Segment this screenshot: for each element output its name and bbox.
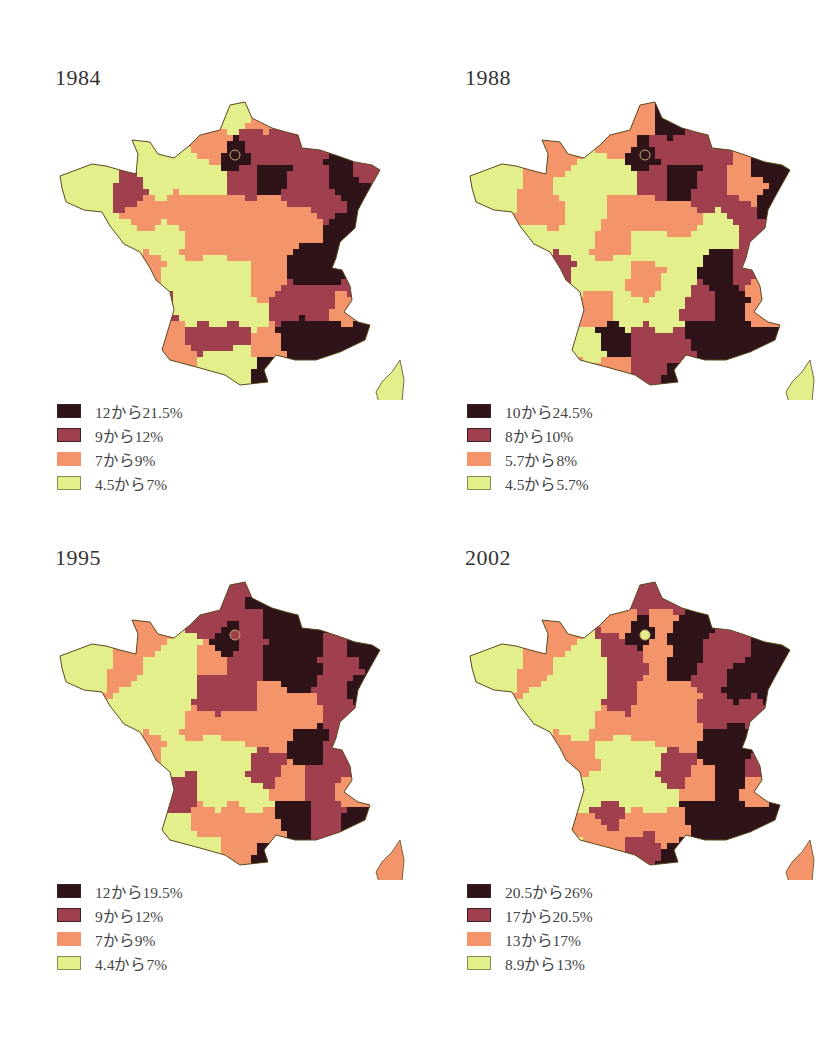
legend-item: 4.5から5.7% xyxy=(467,472,593,494)
legend-item: 9から12% xyxy=(57,904,183,926)
legend-swatch-darkest xyxy=(57,404,81,418)
legend-item: 5.7から8% xyxy=(467,448,593,470)
legend-swatch-maroon xyxy=(57,428,81,442)
legend-item: 4.5から7% xyxy=(57,472,183,494)
legend: 12から19.5% 9から12% 7から9% 4.4から7% xyxy=(57,880,183,976)
map-panel-2002: 2002 20.5から26% 17から20.5% 13から17% 8.9から13… xyxy=(450,510,818,980)
map-panel-1988: 1988 10から24.5% 8から10% 5.7から8% 4.5から5.7% xyxy=(450,30,818,500)
france-choropleth-map xyxy=(450,30,818,400)
france-choropleth-map xyxy=(40,510,420,880)
legend-item: 8.9から13% xyxy=(467,952,593,974)
legend-item: 17から20.5% xyxy=(467,904,593,926)
legend-swatch-darkest xyxy=(467,404,491,418)
legend-swatch-yellow xyxy=(467,476,491,490)
france-choropleth-map xyxy=(40,30,420,400)
legend: 10から24.5% 8から10% 5.7から8% 4.5から5.7% xyxy=(467,400,593,496)
legend-swatch-darkest xyxy=(467,884,491,898)
legend-item: 9から12% xyxy=(57,424,183,446)
legend-swatch-orange xyxy=(467,932,491,946)
france-choropleth-map xyxy=(450,510,818,880)
legend-swatch-orange xyxy=(467,452,491,466)
legend-swatch-yellow xyxy=(467,956,491,970)
legend: 20.5から26% 17から20.5% 13から17% 8.9から13% xyxy=(467,880,593,976)
legend-item: 10から24.5% xyxy=(467,400,593,422)
legend-item: 13から17% xyxy=(467,928,593,950)
legend-item: 12から21.5% xyxy=(57,400,183,422)
legend-item: 7から9% xyxy=(57,448,183,470)
legend: 12から21.5% 9から12% 7から9% 4.5から7% xyxy=(57,400,183,496)
legend-swatch-maroon xyxy=(467,908,491,922)
paris-marker xyxy=(230,150,240,160)
legend-swatch-orange xyxy=(57,452,81,466)
map-panel-1984: 1984 12から21.5% 9から12% 7から9% 4.5から7% xyxy=(40,30,420,500)
paris-marker xyxy=(230,630,240,640)
legend-swatch-darkest xyxy=(57,884,81,898)
legend-item: 20.5から26% xyxy=(467,880,593,902)
legend-swatch-yellow xyxy=(57,476,81,490)
corsica-region xyxy=(376,360,404,400)
paris-marker xyxy=(640,630,650,640)
legend-item: 7から9% xyxy=(57,928,183,950)
legend-item: 12から19.5% xyxy=(57,880,183,902)
legend-swatch-maroon xyxy=(57,908,81,922)
legend-item: 4.4から7% xyxy=(57,952,183,974)
corsica-region xyxy=(786,840,814,880)
corsica-region xyxy=(376,840,404,880)
legend-swatch-yellow xyxy=(57,956,81,970)
paris-marker xyxy=(640,150,650,160)
map-panel-1995: 1995 12から19.5% 9から12% 7から9% 4.4から7% xyxy=(40,510,420,980)
legend-item: 8から10% xyxy=(467,424,593,446)
legend-swatch-maroon xyxy=(467,428,491,442)
legend-swatch-orange xyxy=(57,932,81,946)
corsica-region xyxy=(786,360,814,400)
